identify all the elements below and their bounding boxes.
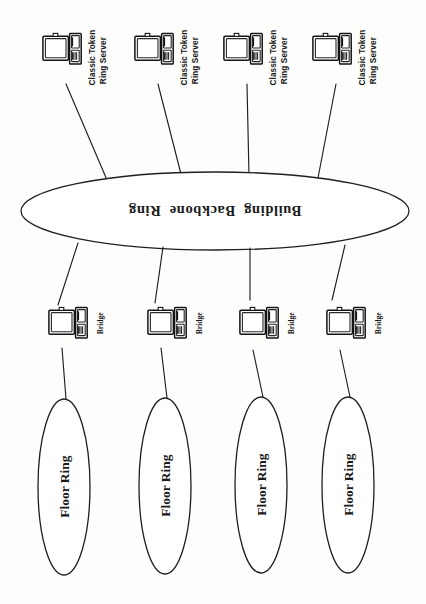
bridge-icon-2[interactable] (148, 307, 186, 338)
server-connector-1 (66, 84, 107, 180)
bridge-icon-1[interactable] (49, 307, 87, 338)
server-connector-lines (66, 84, 336, 180)
floor-ring-ellipses (38, 397, 374, 575)
bridge-icon-3[interactable] (240, 307, 278, 338)
floor-ring-label-1: Floor Ring (57, 441, 72, 533)
server-label-2-line1: Classic Token (180, 23, 189, 93)
server-label-3-line1: Classic Token (269, 23, 278, 93)
server-icon-1[interactable] (43, 33, 81, 64)
diagram-canvas: Building Backbone Ring Classic Token Rin… (0, 0, 426, 604)
server-connector-3 (247, 84, 249, 176)
floor-connector-2 (161, 348, 167, 398)
floor-ring-label-3: Floor Ring (254, 439, 269, 531)
building-backbone-ring-label: Building Backbone Ring (105, 203, 325, 219)
server-connector-4 (318, 84, 336, 178)
bridge-label-2: Bridge (196, 303, 205, 343)
server-connector-2 (158, 84, 182, 178)
server-icon-2[interactable] (135, 33, 173, 64)
server-label-3-line2: Ring Server (280, 26, 289, 96)
bridge-label-1: Bridge (97, 303, 106, 343)
floor-connector-1 (62, 348, 66, 399)
bridge-label-3: Bridge (288, 303, 297, 343)
floor-ring-label-2: Floor Ring (158, 440, 173, 532)
server-label-4-line2: Ring Server (369, 26, 378, 96)
bridge-icon-4[interactable] (327, 307, 365, 338)
server-icon-4[interactable] (313, 33, 351, 64)
server-label-2-line2: Ring Server (191, 26, 200, 96)
bridge-label-4: Bridge (375, 303, 384, 343)
bridge-connector-lines (58, 243, 345, 305)
server-label-1-line2: Ring Server (99, 26, 108, 96)
floor-connector-4 (340, 350, 350, 397)
bridge-connector-4 (332, 245, 345, 300)
floor-ring-label-4: Floor Ring (341, 439, 356, 531)
bridge-connector-1 (58, 243, 78, 305)
server-icon-3[interactable] (224, 33, 262, 64)
server-label-1-line1: Classic Token (88, 23, 97, 93)
bridge-connector-2 (155, 247, 163, 303)
server-label-4-line1: Classic Token (358, 23, 367, 93)
floor-connector-lines (62, 348, 350, 399)
floor-connector-3 (253, 350, 263, 397)
